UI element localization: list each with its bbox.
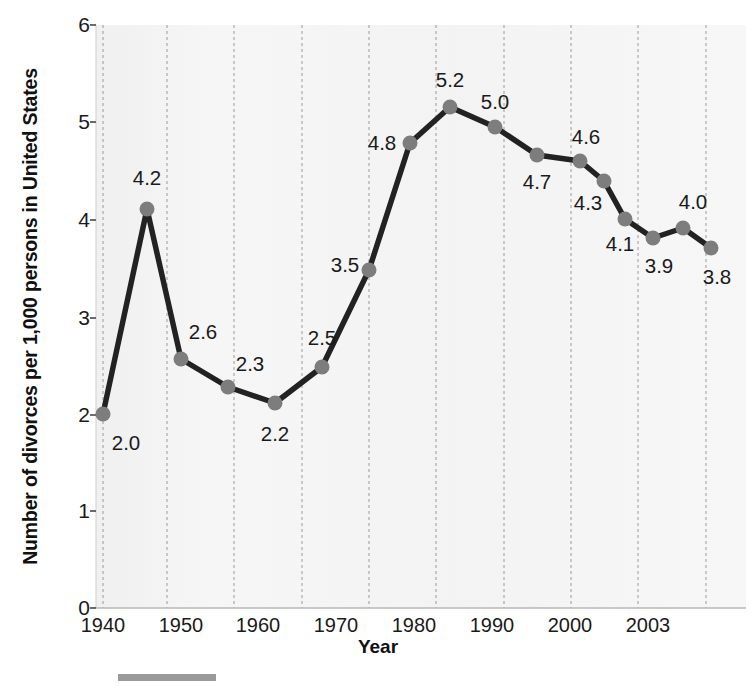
data-point-label: 4.2 [133,168,162,189]
data-point-label: 3.5 [331,255,360,276]
y-tick-label: 6 [56,14,90,35]
data-point-label: 2.5 [308,328,337,349]
data-point-label: 2.0 [112,433,141,454]
data-point-label: 5.2 [436,70,465,91]
x-tick-label: 1970 [314,614,359,637]
data-point-label: 5.0 [481,92,510,113]
data-point-label: 3.9 [645,256,674,277]
scan-artifact-bar [118,674,216,681]
data-point-label: 4.1 [606,234,635,255]
y-axis-title: Number of divorces per 1,000 persons in … [19,7,42,627]
data-point-label: 3.8 [703,267,732,288]
x-tick-label: 2003 [626,614,671,637]
data-point-label: 2.3 [236,354,265,375]
x-tick-label: 1980 [392,614,437,637]
y-axis-tick-labels: 6543210 [40,0,90,686]
y-tick-label: 4 [56,209,90,230]
x-tick-label: 2000 [548,614,593,637]
divorce-rate-line-chart: 2.04.22.62.32.22.53.54.85.25.04.74.64.34… [0,0,756,686]
y-tick-label: 2 [56,404,90,425]
x-axis-title: Year [0,636,756,658]
y-tick-label: 1 [56,500,90,521]
data-point-label: 2.2 [261,424,290,445]
data-point-label: 4.7 [523,172,552,193]
data-point-label: 2.6 [189,322,218,343]
data-point-label: 4.3 [574,193,603,214]
x-tick-label: 1990 [470,614,515,637]
x-tick-label: 1960 [236,614,281,637]
y-tick-label: 3 [56,307,90,328]
y-tick-label: 5 [56,111,90,132]
x-tick-label: 1940 [81,614,126,637]
data-point-label: 4.6 [572,127,601,148]
data-labels-layer: 2.04.22.62.32.22.53.54.85.25.04.74.64.34… [0,0,756,686]
x-tick-label: 1950 [159,614,204,637]
data-point-label: 4.0 [679,192,708,213]
data-point-label: 4.8 [368,133,397,154]
